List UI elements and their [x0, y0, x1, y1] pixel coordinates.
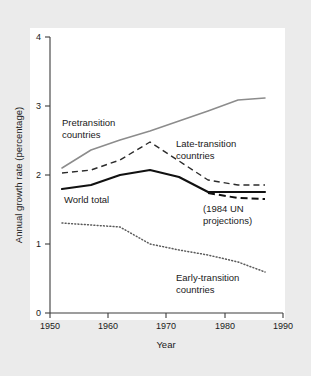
x-tick-label-1990: 1990: [273, 321, 293, 331]
x-tick-label-1950: 1950: [40, 321, 60, 331]
y-tick-label-0: 0: [36, 308, 41, 318]
y-tick-label-3: 3: [36, 101, 41, 111]
figure-container: 4 3 2 1 0 1950 1960 1970 1980 1990 Year …: [0, 0, 311, 376]
x-tick-label-1960: 1960: [98, 321, 118, 331]
x-axis-title: Year: [156, 339, 175, 350]
annotation-un-projections-line2: projections): [203, 215, 252, 226]
series-un-projections: [208, 193, 265, 199]
y-tick-label-2: 2: [36, 170, 41, 180]
y-axis-title: Annual growth rate (percentage): [13, 107, 24, 243]
series-early-transition-countries: [62, 223, 265, 272]
annotation-late-transition-line2: countries: [176, 150, 215, 161]
annotation-early-transition-line2: countries: [176, 284, 215, 295]
y-tick-label-1: 1: [36, 239, 41, 249]
series-world-total: [62, 170, 265, 192]
x-tick-label-1970: 1970: [156, 321, 176, 331]
annotation-late-transition-line1: Late-transition: [176, 138, 236, 149]
annotation-pretransition-line1: Pretransition: [62, 117, 115, 128]
line-chart: 4 3 2 1 0 1950 1960 1970 1980 1990 Year …: [0, 0, 311, 376]
x-tick-label-1980: 1980: [215, 321, 235, 331]
annotation-un-projections-line1: (1984 UN: [203, 203, 244, 214]
annotation-pretransition-line2: countries: [62, 129, 101, 140]
y-tick-label-4: 4: [36, 32, 41, 42]
annotation-early-transition-line1: Early-transition: [176, 272, 239, 283]
annotation-world-total: World total: [64, 194, 109, 205]
